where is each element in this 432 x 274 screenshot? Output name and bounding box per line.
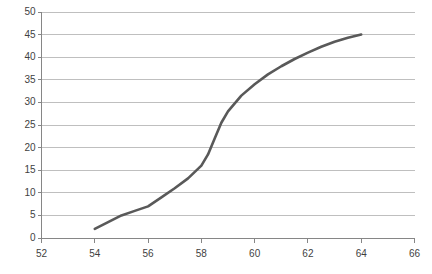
y-tick-label: 45: [10, 29, 36, 40]
x-tick-label: 58: [186, 248, 216, 259]
y-tick-label: 30: [10, 96, 36, 107]
y-tick-label: 10: [10, 187, 36, 198]
y-tick-label: 5: [10, 209, 36, 220]
x-tick-label: 52: [27, 248, 57, 259]
y-tick-label: 20: [10, 142, 36, 153]
plot-area: [0, 0, 432, 274]
y-tick-label: 35: [10, 74, 36, 85]
x-tick-label: 64: [346, 248, 376, 259]
y-tick-label: 0: [10, 232, 36, 243]
gridline-group: [38, 12, 415, 238]
x-tick-label: 66: [400, 248, 430, 259]
y-tick-label: 25: [10, 119, 36, 130]
y-tick-label: 40: [10, 51, 36, 62]
y-tick-label: 50: [10, 6, 36, 17]
x-tick-mark-group: [42, 238, 415, 243]
x-tick-label: 62: [293, 248, 323, 259]
x-tick-label: 60: [240, 248, 270, 259]
x-tick-label: 56: [133, 248, 163, 259]
line-chart: 05101520253035404550 5254565860626466: [0, 0, 432, 274]
data-series-line: [95, 35, 361, 229]
x-tick-label: 54: [80, 248, 110, 259]
y-tick-label: 15: [10, 164, 36, 175]
